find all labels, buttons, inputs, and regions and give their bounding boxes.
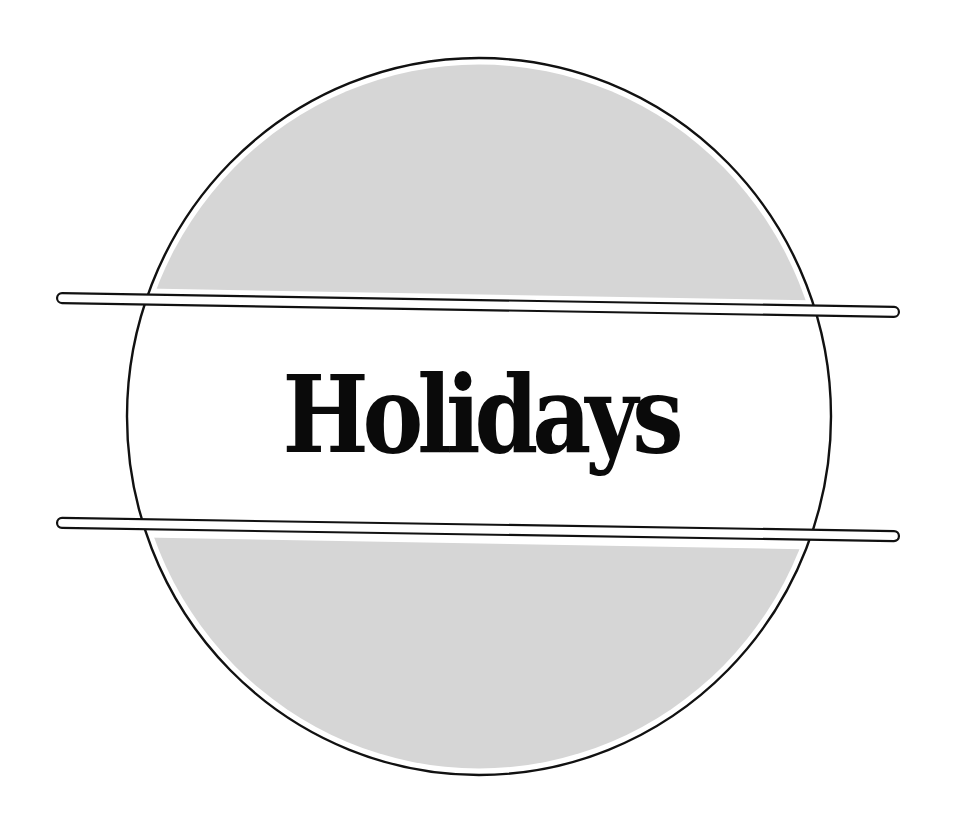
holidays-title: Holidays — [67, 362, 893, 468]
bottom-gray-cap — [0, 535, 960, 827]
lower-bar — [57, 518, 899, 541]
top-gray-cap — [0, 0, 960, 303]
